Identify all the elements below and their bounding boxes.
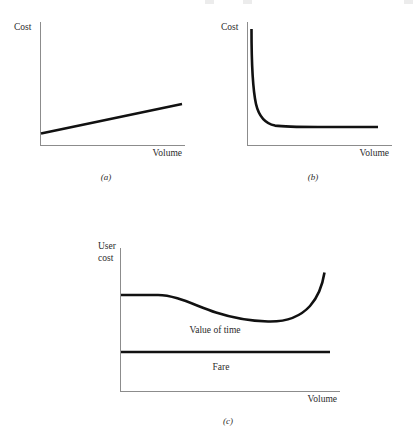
panel-a-axes (40, 22, 185, 145)
panel-b-y-axis-label: Cost (221, 22, 239, 32)
figure-root: Cost Volume (a) Cost Volume (b) User cos… (0, 0, 418, 433)
panel-c-value-of-time-curve (121, 273, 325, 322)
panel-c-caption: (c) (223, 416, 233, 426)
panel-c-x-axis-label: Volume (308, 394, 337, 404)
panel-b: Cost Volume (b) (221, 22, 392, 182)
panel-b-caption: (b) (308, 172, 319, 182)
panel-c-y-axis-label-line1: User (98, 241, 117, 251)
panel-b-x-axis-label: Volume (360, 148, 389, 158)
panel-c-fare-label: Fare (213, 362, 230, 372)
panel-c-y-axis-label-line2: cost (98, 253, 114, 263)
panel-b-cost-curve (252, 29, 379, 127)
panel-a: Cost Volume (a) (14, 22, 185, 182)
panel-a-x-axis-label: Volume (153, 148, 182, 158)
panel-c: User cost Value of time Fare Volume (c) (98, 241, 340, 426)
panel-c-value-of-time-label: Value of time (189, 325, 240, 335)
panel-a-cost-line (41, 104, 182, 134)
panel-a-caption: (a) (101, 172, 112, 182)
panel-c-axes (120, 248, 340, 391)
figure-canvas: Cost Volume (a) Cost Volume (b) User cos… (0, 0, 418, 433)
panel-a-y-axis-label: Cost (14, 22, 32, 32)
